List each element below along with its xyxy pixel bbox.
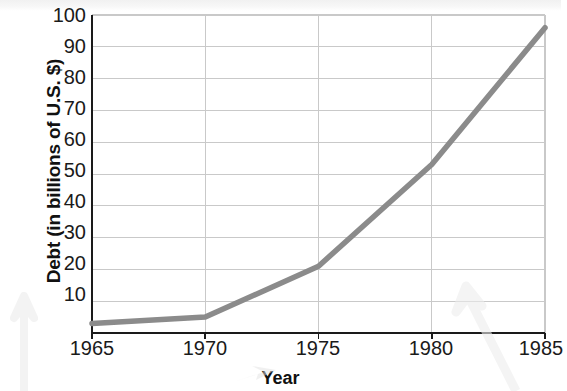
scan-arrow-center: [236, 366, 276, 381]
scan-arrow-right: [456, 286, 516, 391]
scan-arrow-left: [14, 296, 34, 391]
